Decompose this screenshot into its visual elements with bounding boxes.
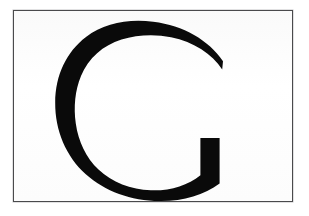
letter-g-glyph	[13, 10, 293, 202]
letter-card-image: G	[0, 0, 309, 216]
glyph-layer: G	[13, 10, 293, 202]
